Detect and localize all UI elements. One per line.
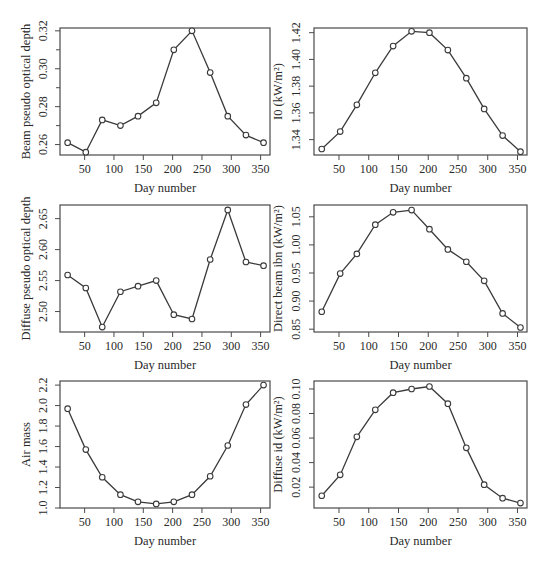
x-tick-label: 250 bbox=[449, 339, 467, 353]
x-tick-label: 250 bbox=[193, 339, 211, 353]
data-point-marker bbox=[518, 500, 524, 506]
data-point-marker bbox=[171, 47, 177, 53]
data-point-marker bbox=[500, 311, 506, 317]
y-axis-label: Air mass bbox=[19, 422, 33, 467]
x-tick-label: 50 bbox=[333, 162, 345, 176]
plot-frame bbox=[60, 28, 270, 155]
x-tick-label: 150 bbox=[134, 339, 152, 353]
data-point-marker bbox=[153, 100, 159, 106]
y-axis: 2.502.552.602.65 bbox=[36, 208, 60, 322]
y-tick-label: 0.04 bbox=[289, 452, 303, 473]
x-axis: 50100150200250300350 bbox=[79, 155, 270, 176]
x-tick-label: 300 bbox=[479, 339, 497, 353]
data-point-marker bbox=[135, 283, 141, 289]
data-point-marker bbox=[319, 146, 325, 152]
x-tick-label: 250 bbox=[193, 515, 211, 529]
data-point-marker bbox=[518, 149, 524, 155]
plot-frame bbox=[314, 381, 527, 508]
y-tick-label: 0.08 bbox=[289, 403, 303, 424]
charts-canvas: 50100150200250300350Day number0.260.280.… bbox=[0, 0, 549, 565]
y-tick-label: 0.06 bbox=[289, 428, 303, 449]
data-markers bbox=[65, 382, 267, 506]
data-point-marker bbox=[153, 501, 159, 507]
x-tick-label: 200 bbox=[419, 162, 437, 176]
figure-grid: 50100150200250300350Day number0.260.280.… bbox=[0, 0, 549, 565]
x-tick-label: 150 bbox=[389, 515, 407, 529]
chart-diffuse-optical-depth: 50100150200250300350Day number2.502.552.… bbox=[19, 196, 270, 372]
y-tick-label: 0.95 bbox=[289, 262, 303, 283]
y-axis: 1.01.21.41.61.82.02.2 bbox=[36, 378, 60, 516]
x-tick-label: 200 bbox=[164, 339, 182, 353]
y-tick-label: 2.50 bbox=[36, 301, 50, 322]
data-point-marker bbox=[207, 257, 213, 263]
data-point-marker bbox=[319, 309, 325, 315]
x-tick-label: 300 bbox=[222, 162, 240, 176]
data-point-marker bbox=[337, 271, 343, 277]
data-point-marker bbox=[207, 70, 213, 76]
y-tick-label: 2.65 bbox=[36, 208, 50, 229]
data-line bbox=[322, 210, 521, 327]
x-tick-label: 250 bbox=[193, 162, 211, 176]
y-tick-label: 1.4 bbox=[36, 460, 50, 475]
data-line bbox=[68, 385, 264, 504]
plot-frame bbox=[60, 381, 270, 508]
plot-frame bbox=[60, 205, 270, 332]
x-axis: 50100150200250300350 bbox=[79, 332, 270, 353]
y-tick-label: 1.36 bbox=[289, 102, 303, 123]
data-point-marker bbox=[481, 278, 487, 284]
x-tick-label: 100 bbox=[360, 515, 378, 529]
data-point-marker bbox=[354, 434, 360, 440]
x-axis-label: Day number bbox=[389, 181, 452, 195]
data-line bbox=[322, 387, 521, 504]
data-point-marker bbox=[464, 259, 470, 265]
x-tick-label: 50 bbox=[79, 515, 91, 529]
y-tick-label: 0.10 bbox=[289, 378, 303, 399]
y-axis: 0.020.040.060.080.10 bbox=[289, 378, 314, 497]
x-tick-label: 100 bbox=[360, 162, 378, 176]
x-axis: 50100150200250300350 bbox=[333, 332, 526, 353]
data-point-marker bbox=[481, 106, 487, 112]
y-tick-label: 2.2 bbox=[36, 378, 50, 393]
data-point-marker bbox=[337, 472, 343, 478]
y-tick-label: 1.00 bbox=[289, 234, 303, 255]
data-point-marker bbox=[261, 140, 267, 146]
data-point-marker bbox=[337, 129, 343, 135]
data-point-marker bbox=[207, 473, 213, 479]
x-tick-label: 50 bbox=[333, 339, 345, 353]
x-axis: 50100150200250300350 bbox=[333, 508, 526, 529]
data-point-marker bbox=[65, 272, 71, 278]
y-tick-label: 2.55 bbox=[36, 270, 50, 291]
data-point-marker bbox=[135, 499, 141, 505]
y-tick-label: 1.8 bbox=[36, 419, 50, 434]
chart-beam-optical-depth: 50100150200250300350Day number0.260.280.… bbox=[19, 20, 270, 195]
x-tick-label: 100 bbox=[105, 339, 123, 353]
data-point-marker bbox=[481, 482, 487, 488]
y-tick-label: 1.38 bbox=[289, 76, 303, 97]
data-point-marker bbox=[427, 30, 433, 36]
data-point-marker bbox=[135, 113, 141, 119]
x-tick-label: 300 bbox=[222, 339, 240, 353]
x-tick-label: 350 bbox=[252, 339, 270, 353]
y-tick-label: 1.05 bbox=[289, 206, 303, 227]
data-point-marker bbox=[118, 289, 124, 295]
data-point-marker bbox=[390, 390, 396, 396]
x-tick-label: 50 bbox=[79, 339, 91, 353]
data-point-marker bbox=[372, 407, 378, 413]
x-tick-label: 300 bbox=[479, 515, 497, 529]
data-point-marker bbox=[445, 47, 451, 53]
data-line bbox=[322, 31, 521, 151]
data-point-marker bbox=[445, 401, 451, 407]
data-point-marker bbox=[427, 384, 433, 390]
x-tick-label: 100 bbox=[105, 162, 123, 176]
data-point-marker bbox=[243, 259, 249, 265]
data-point-marker bbox=[171, 499, 177, 505]
data-line bbox=[68, 210, 264, 327]
chart-air-mass: 50100150200250300350Day number1.01.21.41… bbox=[19, 378, 270, 548]
x-tick-label: 350 bbox=[252, 162, 270, 176]
data-point-marker bbox=[189, 316, 195, 322]
data-point-marker bbox=[409, 207, 415, 213]
chart-diffuse-id: 50100150200250300350Day number0.020.040.… bbox=[271, 378, 527, 548]
data-markers bbox=[319, 207, 523, 330]
data-point-marker bbox=[372, 222, 378, 228]
data-point-marker bbox=[243, 132, 249, 138]
